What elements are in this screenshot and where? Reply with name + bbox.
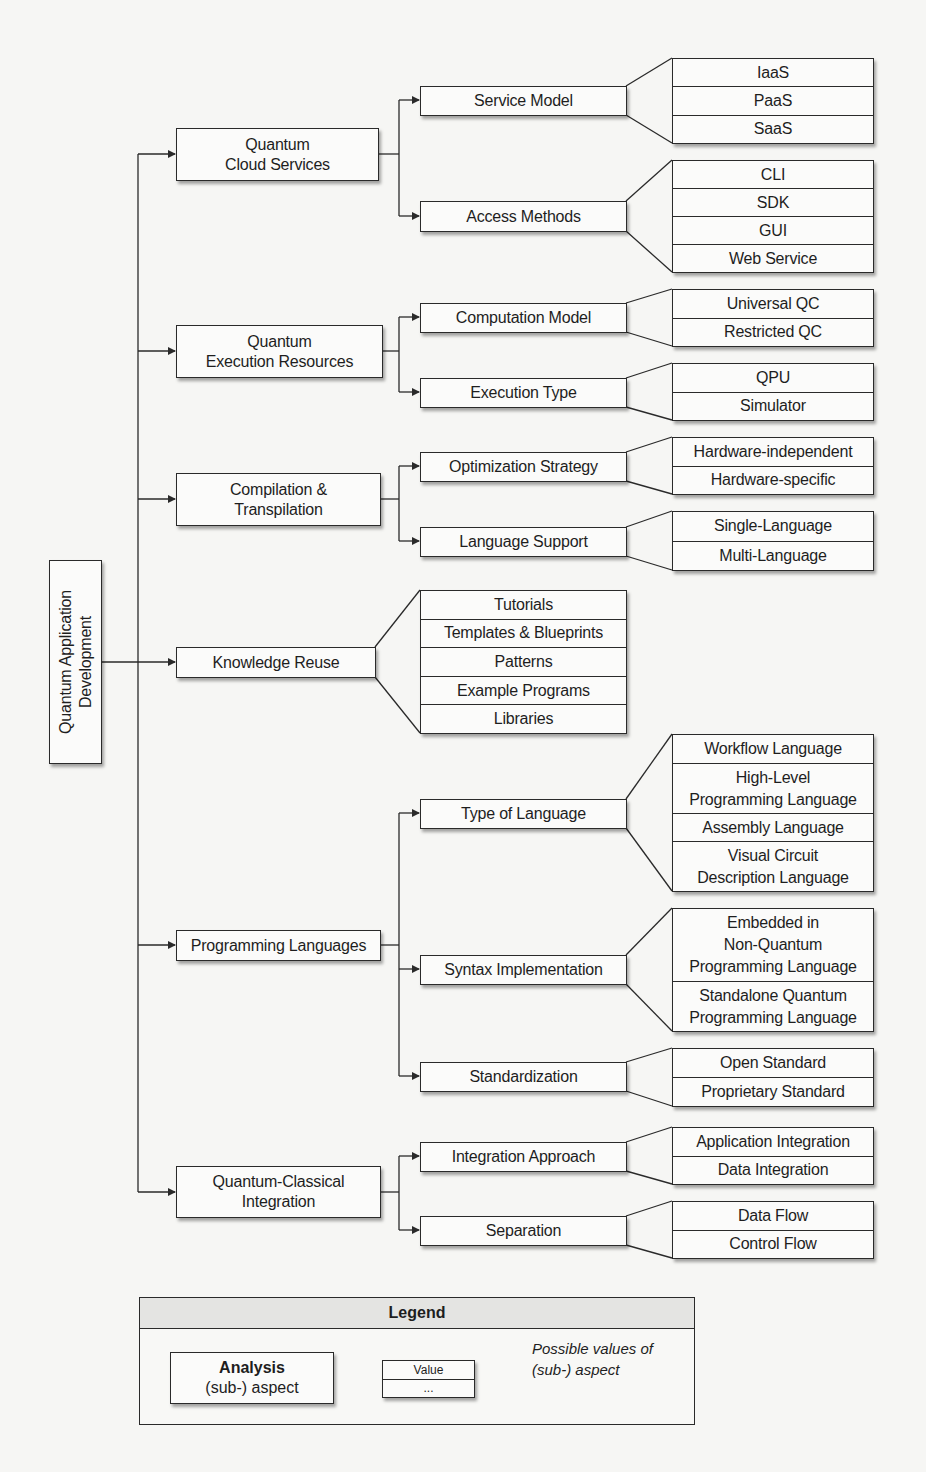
value-item: Data Flow	[673, 1202, 873, 1230]
aspect-quantum-execution-resources: Quantum Execution Resources	[176, 325, 383, 378]
value-item: Standalone Quantum Programming Language	[673, 981, 873, 1031]
aspect-knowledge-reuse: Knowledge Reuse	[176, 647, 376, 678]
value-item: CLI	[673, 161, 873, 188]
value-item: Assembly Language	[673, 813, 873, 841]
legend-aspect-sub: (sub-) aspect	[205, 1378, 298, 1398]
sub-aspect-service-model: Service Model	[420, 86, 627, 116]
values-standardization: Open Standard Proprietary Standard	[672, 1048, 874, 1107]
value-item: Libraries	[421, 704, 626, 733]
root-node: Quantum Application Development	[49, 560, 102, 764]
taxonomy-diagram: Quantum Application Development Quantum …	[0, 0, 926, 1472]
value-item: Tutorials	[421, 591, 626, 619]
value-item: PaaS	[673, 86, 873, 114]
value-item: Proprietary Standard	[673, 1077, 873, 1106]
sub-aspect-integration-approach: Integration Approach	[420, 1142, 627, 1172]
legend: Legend Analysis (sub-) aspect Value ... …	[139, 1297, 695, 1425]
value-item: Single-Language	[673, 512, 873, 541]
sub-aspect-type-of-language: Type of Language	[420, 799, 627, 829]
sub-aspect-language-support: Language Support	[420, 527, 627, 557]
value-item: High-Level Programming Language	[673, 763, 873, 813]
values-separation: Data Flow Control Flow	[672, 1201, 874, 1259]
sub-aspect-access-methods: Access Methods	[420, 201, 627, 232]
sub-aspect-syntax-implementation: Syntax Implementation	[420, 955, 627, 985]
sub-aspect-standardization: Standardization	[420, 1062, 627, 1092]
sub-aspect-optimization-strategy: Optimization Strategy	[420, 452, 627, 482]
value-item: Data Integration	[673, 1156, 873, 1185]
sub-aspect-separation: Separation	[420, 1216, 627, 1246]
values-knowledge-reuse: Tutorials Templates & Blueprints Pattern…	[420, 590, 627, 734]
aspect-quantum-cloud-services: Quantum Cloud Services	[176, 128, 379, 181]
legend-aspect-bold: Analysis	[219, 1358, 285, 1378]
values-execution-type: QPU Simulator	[672, 363, 874, 421]
values-integration-approach: Application Integration Data Integration	[672, 1127, 874, 1185]
values-optimization-strategy: Hardware-independent Hardware-specific	[672, 437, 874, 495]
legend-value-more: ...	[383, 1379, 474, 1398]
value-item: Restricted QC	[673, 318, 873, 347]
value-item: Hardware-specific	[673, 466, 873, 495]
value-item: Open Standard	[673, 1049, 873, 1077]
value-item: GUI	[673, 216, 873, 244]
value-item: Visual Circuit Description Language	[673, 841, 873, 891]
value-item: Simulator	[673, 392, 873, 421]
value-item: SaaS	[673, 115, 873, 143]
value-item: Multi-Language	[673, 541, 873, 571]
legend-value: Value	[383, 1361, 474, 1379]
root-label: Quantum Application Development	[56, 562, 96, 762]
value-item: Control Flow	[673, 1230, 873, 1259]
values-syntax-implementation: Embedded in Non-Quantum Programming Lang…	[672, 908, 874, 1032]
legend-note: Possible values of (sub-) aspect	[532, 1338, 692, 1380]
value-item: Web Service	[673, 244, 873, 272]
values-type-of-language: Workflow Language High-Level Programming…	[672, 734, 874, 892]
value-item: IaaS	[673, 59, 873, 86]
sub-aspect-execution-type: Execution Type	[420, 378, 627, 408]
value-item: Templates & Blueprints	[421, 619, 626, 648]
legend-aspect-box: Analysis (sub-) aspect	[170, 1352, 334, 1404]
aspect-programming-languages: Programming Languages	[176, 930, 381, 961]
values-computation-model: Universal QC Restricted QC	[672, 289, 874, 347]
value-item: Workflow Language	[673, 735, 873, 763]
value-item: Universal QC	[673, 290, 873, 318]
sub-aspect-computation-model: Computation Model	[420, 303, 627, 333]
aspect-quantum-classical-integration: Quantum-Classical Integration	[176, 1166, 381, 1218]
aspect-compilation-transpilation: Compilation & Transpilation	[176, 473, 381, 526]
value-item: Patterns	[421, 647, 626, 676]
values-language-support: Single-Language Multi-Language	[672, 511, 874, 571]
value-item: Embedded in Non-Quantum Programming Lang…	[673, 909, 873, 981]
value-item: SDK	[673, 188, 873, 216]
value-item: Application Integration	[673, 1128, 873, 1156]
values-access-methods: CLI SDK GUI Web Service	[672, 160, 874, 273]
value-item: QPU	[673, 364, 873, 392]
legend-title: Legend	[140, 1298, 694, 1329]
legend-values-box: Value ...	[382, 1360, 475, 1398]
values-service-model: IaaS PaaS SaaS	[672, 58, 874, 144]
value-item: Hardware-independent	[673, 438, 873, 466]
value-item: Example Programs	[421, 676, 626, 705]
